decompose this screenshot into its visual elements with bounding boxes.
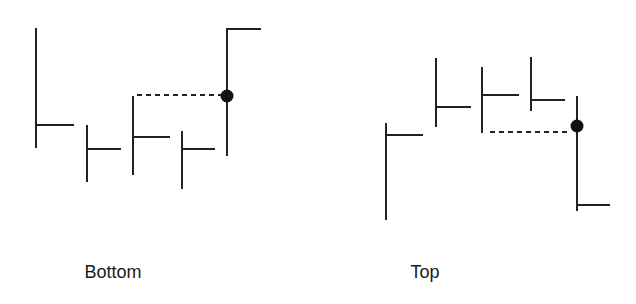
top-label: Top <box>410 262 439 282</box>
diagram-canvas: Bottom Top <box>0 0 636 304</box>
price-bar <box>133 96 170 175</box>
price-bar <box>36 28 74 148</box>
price-bar <box>482 67 519 133</box>
price-bar <box>182 131 215 189</box>
price-bar <box>386 123 423 220</box>
price-bar <box>87 125 121 182</box>
top-pattern-panel <box>386 57 610 220</box>
price-bar <box>577 96 610 211</box>
marker-dot-icon <box>571 120 584 133</box>
bottom-pattern-panel <box>36 28 261 189</box>
marker-dot-icon <box>221 90 234 103</box>
price-bar <box>531 57 565 111</box>
price-bar <box>436 58 471 127</box>
bottom-label: Bottom <box>84 262 141 282</box>
